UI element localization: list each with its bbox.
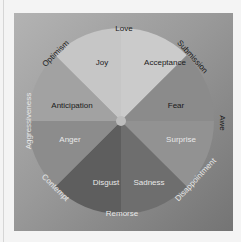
petal-label-acceptance: Acceptance	[144, 59, 186, 67]
dyad-label-aggressiveness: Aggressiveness	[25, 93, 33, 149]
dyad-label-awe: Awe	[218, 115, 226, 130]
petal-label-fear: Fear	[168, 102, 184, 110]
dyad-label-love: Love	[115, 25, 132, 33]
petal-label-surprise: Surprise	[166, 136, 196, 144]
petal-label-anticipation: Anticipation	[51, 102, 92, 110]
emotion-wheel-frame	[14, 13, 233, 231]
emotion-wheel	[14, 13, 233, 231]
edge-line	[3, 0, 4, 242]
dyad-label-remorse: Remorse	[106, 210, 138, 218]
petal-label-anger: Anger	[59, 136, 80, 144]
petal-label-disgust: Disgust	[93, 179, 120, 187]
petal-label-sadness: Sadness	[133, 179, 164, 187]
wheel-hub	[116, 116, 126, 126]
petal-label-joy: Joy	[96, 59, 108, 67]
